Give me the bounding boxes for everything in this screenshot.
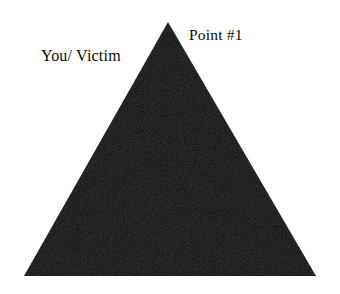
label-point-1: Point #1 [189,27,243,43]
triangle-shape [0,0,340,294]
triangle-diagram: Point #1 You/ Victim [0,0,340,294]
label-you-victim: You/ Victim [41,48,121,64]
